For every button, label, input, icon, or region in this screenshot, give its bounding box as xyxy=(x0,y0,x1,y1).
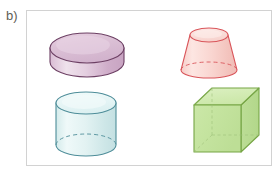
figure-screenshot: b) xyxy=(0,0,280,175)
figure-frame xyxy=(26,10,272,166)
part-label-b: b) xyxy=(6,9,18,23)
